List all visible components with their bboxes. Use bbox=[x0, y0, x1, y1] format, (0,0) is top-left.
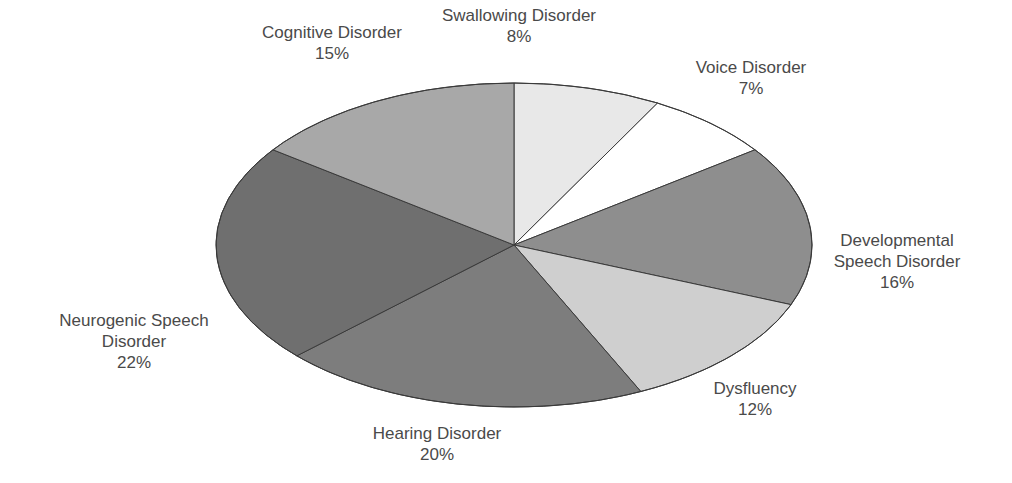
slice-label-text: Neurogenic Speech bbox=[59, 310, 208, 331]
slice-percent: 22% bbox=[59, 352, 208, 373]
slice-label-swallowing: Swallowing Disorder8% bbox=[442, 5, 596, 47]
slice-label-text: Voice Disorder bbox=[696, 57, 807, 78]
slice-percent: 16% bbox=[834, 272, 961, 293]
slice-percent: 15% bbox=[262, 43, 402, 64]
slice-label-neurogenic: Neurogenic SpeechDisorder22% bbox=[59, 310, 208, 373]
slice-percent: 20% bbox=[373, 444, 502, 465]
slice-label-text: Cognitive Disorder bbox=[262, 22, 402, 43]
slice-percent: 7% bbox=[696, 78, 807, 99]
slice-label-text: Speech Disorder bbox=[834, 251, 961, 272]
slice-label-text: Disorder bbox=[59, 331, 208, 352]
pie-slices bbox=[216, 83, 812, 407]
slice-label-voice: Voice Disorder7% bbox=[696, 57, 807, 99]
slice-label-text: Dysfluency bbox=[713, 378, 796, 399]
slice-percent: 8% bbox=[442, 26, 596, 47]
slice-label-cognitive: Cognitive Disorder15% bbox=[262, 22, 402, 64]
slice-percent: 12% bbox=[713, 399, 796, 420]
slice-label-text: Hearing Disorder bbox=[373, 423, 502, 444]
slice-label-text: Developmental bbox=[834, 230, 961, 251]
slice-label-developmental: DevelopmentalSpeech Disorder16% bbox=[834, 230, 961, 293]
slice-label-hearing: Hearing Disorder20% bbox=[373, 423, 502, 465]
slice-label-text: Swallowing Disorder bbox=[442, 5, 596, 26]
slice-label-dysfluency: Dysfluency12% bbox=[713, 378, 796, 420]
